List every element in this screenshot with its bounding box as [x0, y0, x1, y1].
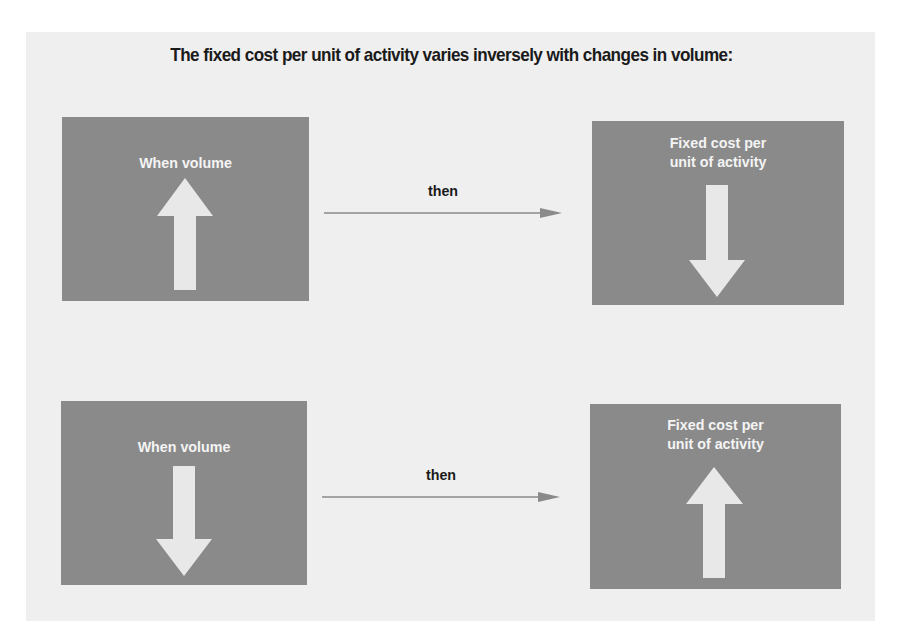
- then-label: then: [334, 182, 553, 200]
- down-arrow-icon: [61, 401, 307, 585]
- up-arrow-icon: [62, 117, 309, 301]
- right-arrow-icon: [322, 490, 560, 504]
- up-arrow-icon: [590, 404, 841, 589]
- down-arrow-icon: [592, 121, 844, 305]
- right-arrow-icon: [324, 206, 562, 220]
- fixed-cost-box-increase: Fixed cost per unit of activity: [590, 404, 841, 589]
- then-connector-2: then: [322, 466, 560, 506]
- volume-box-decrease: When volume: [61, 401, 307, 585]
- volume-box-increase: When volume: [62, 117, 309, 301]
- then-connector-1: then: [324, 182, 562, 222]
- diagram-title: The fixed cost per unit of activity vari…: [45, 44, 858, 66]
- fixed-cost-box-decrease: Fixed cost per unit of activity: [592, 121, 844, 305]
- then-label: then: [332, 466, 551, 484]
